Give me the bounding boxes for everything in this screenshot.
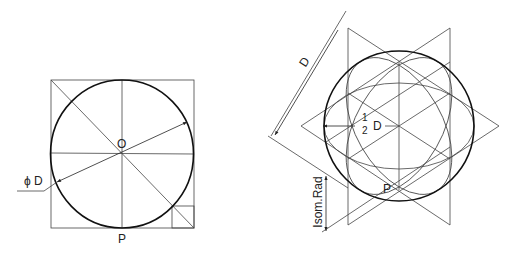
label-phi-D: ϕ D [24, 175, 43, 187]
label-isom-rad: Isom.Rad [312, 176, 324, 227]
left-figure [17, 80, 194, 228]
right-figure [268, 11, 499, 232]
label-half-D: D [373, 120, 382, 132]
label-half-num: 1 [362, 113, 368, 123]
label-P-right: P [383, 183, 391, 195]
label-O: O [117, 138, 126, 150]
drawing-canvas [0, 0, 512, 255]
D-extension [271, 11, 346, 136]
label-P-left: P [118, 233, 126, 245]
D-base-line [268, 136, 348, 188]
D-dimension [275, 30, 338, 135]
label-half-den: 2 [362, 126, 368, 136]
